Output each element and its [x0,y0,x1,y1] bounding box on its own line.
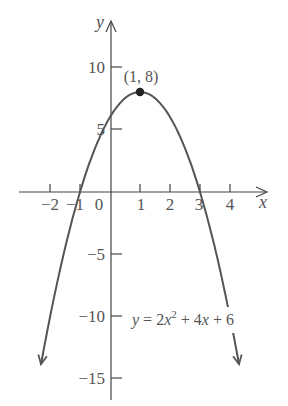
origin-label: 0 [95,195,104,214]
equation-label: y = 2x2 + 4x + 6 [130,308,234,329]
vertex-point [136,88,144,96]
y-tick-label: −5 [87,245,105,264]
y-tick-label: 5 [97,120,106,139]
y-axis [106,21,122,400]
equation-var: x [163,311,171,328]
y-tick-label: 10 [88,58,105,77]
equation-prefix: = 2 [139,311,164,328]
x-tick-label: 4 [226,195,235,214]
x-tick-label: −2 [41,195,59,214]
vertex-label: (1, 8) [124,68,159,86]
equation-rest: + 4 [177,311,202,328]
x-tick-label: −1 [66,195,84,214]
x-axis-label: x [258,192,267,212]
equation-end: + 6 [209,311,234,328]
x-tick-label: 2 [166,195,175,214]
x-tick-label: 3 [195,195,204,214]
y-tick-label: −10 [78,307,105,326]
parabola-graph: (1, 8) y x −2 −1 0 1 2 3 4 10 5 −5 −10 −… [0,0,288,406]
equation-var2: x [201,311,209,328]
y-tick-label: −15 [78,369,105,388]
y-axis-label: y [94,12,104,32]
x-tick-label: 1 [137,195,146,214]
